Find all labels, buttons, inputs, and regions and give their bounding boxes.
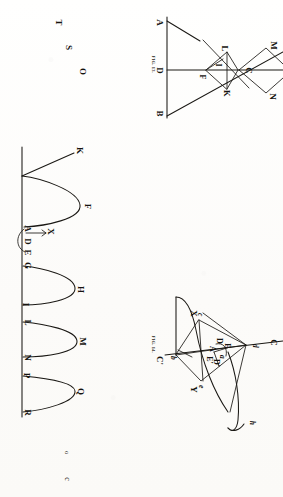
fig14-label-Cprime: C': [155, 356, 164, 365]
fig14-label-C: C: [269, 339, 278, 346]
fig14-geometry: [165, 297, 283, 431]
fig14-caption: FIG. 14.: [150, 336, 155, 353]
fig14-label-a: a: [218, 355, 226, 359]
fig14-label-Y: Y: [189, 386, 198, 393]
fig14-drawing: [0, 0, 283, 497]
fig14-curve-right: [228, 352, 239, 430]
fig14-label-d: d: [251, 344, 259, 348]
fig14-label-e: e: [198, 385, 206, 388]
fig14-label-A: A: [208, 346, 216, 352]
fig14-label-E: E: [223, 343, 231, 348]
scanned-page: T S O o c FIG. 13.: [0, 0, 283, 497]
fig14-label-b: b: [169, 356, 177, 360]
fig14-line-to-d-upper: [203, 313, 246, 345]
fig14-label-Eprime: E': [205, 356, 213, 364]
fig14-label-h: h: [248, 421, 256, 425]
fig14-label-c: c: [197, 313, 205, 316]
